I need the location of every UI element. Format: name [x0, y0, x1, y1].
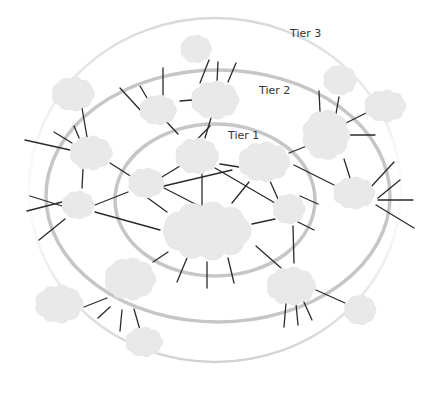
- network-link: [39, 219, 65, 240]
- network-link: [232, 182, 249, 203]
- network-link: [205, 118, 211, 138]
- network-link: [252, 219, 275, 224]
- cloud-t2-right-upper: [303, 110, 351, 160]
- network-link: [134, 309, 140, 330]
- cloud-t3-top: [181, 35, 212, 64]
- network-link: [284, 303, 286, 327]
- tier-network-diagram: Tier 3 Tier 2 Tier 1: [0, 0, 435, 397]
- cloud-t1-left: [128, 168, 164, 199]
- network-link: [376, 205, 414, 228]
- cloud-t2-far-left: [62, 191, 95, 220]
- network-link: [82, 108, 87, 137]
- cloud-t3-bottom-left: [35, 285, 83, 324]
- network-link: [270, 181, 278, 199]
- network-link: [120, 310, 122, 331]
- cloud-t2-bottom-right: [267, 267, 316, 306]
- network-link: [95, 192, 128, 205]
- network-link: [153, 252, 168, 262]
- network-link: [162, 166, 180, 177]
- diagram-canvas: [0, 0, 435, 397]
- cloud-t3-bottom-right: [344, 295, 376, 326]
- cloud-t3-top-left: [52, 77, 95, 112]
- network-link: [344, 159, 350, 178]
- cloud-t1-top: [176, 138, 220, 175]
- cloud-t2-left: [70, 136, 113, 171]
- network-link: [293, 226, 294, 263]
- cloud-t3-bottom: [126, 327, 163, 358]
- tier2-label: Tier 2: [259, 84, 290, 97]
- tier3-label: Tier 3: [290, 27, 321, 40]
- cloud-t1-right: [239, 142, 291, 183]
- network-link: [217, 62, 218, 82]
- tier1-label: Tier 1: [228, 129, 259, 142]
- cloud-core: [163, 201, 251, 260]
- network-link: [98, 307, 110, 318]
- cloud-t2-top-center: [191, 81, 239, 120]
- network-link: [120, 88, 142, 112]
- network-link: [74, 126, 80, 140]
- network-link: [228, 258, 234, 283]
- network-link: [84, 298, 107, 307]
- network-link: [180, 100, 192, 101]
- cloud-t3-top-right: [324, 65, 358, 96]
- network-clouds: [35, 35, 406, 358]
- network-link: [145, 196, 167, 212]
- network-link: [82, 169, 83, 188]
- network-link: [220, 164, 239, 167]
- cloud-t2-right: [334, 177, 376, 210]
- network-link: [95, 212, 160, 230]
- network-link: [228, 63, 236, 82]
- network-link: [27, 202, 62, 211]
- cloud-t2-top-left: [140, 95, 177, 126]
